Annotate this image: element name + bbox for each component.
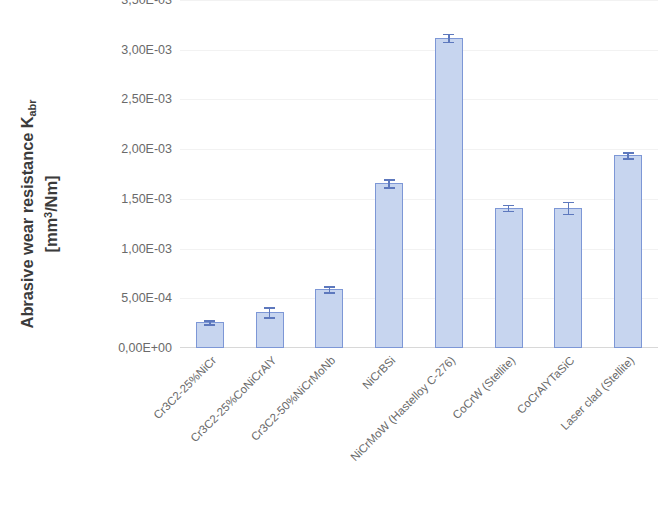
y-axis-tick-label: 1,50E-03 — [96, 192, 172, 206]
error-bar-cap-lower — [503, 211, 514, 213]
error-bar-cap-lower — [264, 317, 275, 319]
y-axis-title-subscript: abr — [26, 100, 38, 117]
error-bar-cap-lower — [563, 214, 574, 216]
bar — [554, 208, 582, 348]
error-bar-cap-lower — [204, 324, 215, 326]
error-bar — [568, 202, 570, 214]
y-axis-title-line2: [mm3/Nm] — [41, 176, 61, 253]
bar-group — [614, 0, 642, 348]
y-axis-title-main: Abrasive wear resistance K — [18, 116, 36, 328]
x-axis-tick-labels: Cr3C2-25%NiCrCr3C2-25%CoNiCrAlYCr3C2-50%… — [180, 348, 658, 523]
error-bar-cap-upper — [324, 286, 335, 288]
y-axis-unit-superscript: 3 — [42, 212, 54, 218]
bar-group — [315, 0, 343, 348]
bar-group — [256, 0, 284, 348]
gridline — [180, 50, 658, 51]
gridline — [180, 298, 658, 299]
bar-group — [196, 0, 224, 348]
gridline — [180, 199, 658, 200]
y-axis-tick-label: 3,50E-03 — [96, 0, 172, 7]
y-axis-tick-label: 2,00E-03 — [96, 142, 172, 156]
bar — [435, 38, 463, 348]
bar-group — [495, 0, 523, 348]
error-bar-cap-upper — [384, 179, 395, 181]
gridline — [180, 249, 658, 250]
y-axis-unit-close: /Nm] — [42, 176, 60, 212]
bar — [614, 155, 642, 348]
y-axis-unit-open: [mm — [42, 218, 60, 253]
error-bar-cap-upper — [204, 320, 215, 322]
bar — [315, 289, 343, 348]
bar — [495, 208, 523, 348]
error-bar-cap-upper — [443, 34, 454, 36]
gridline — [180, 149, 658, 150]
error-bar-cap-upper — [503, 205, 514, 207]
error-bar-cap-upper — [264, 307, 275, 309]
y-axis-tick-label: 5,00E-04 — [96, 291, 172, 305]
bar — [196, 322, 224, 348]
gridline — [180, 99, 658, 100]
bar-group — [375, 0, 403, 348]
y-axis-tick-label: 0,00E+00 — [96, 341, 172, 355]
y-axis-title-line1: Abrasive wear resistance Kabr — [17, 100, 39, 329]
y-axis-tick-label: 1,00E-03 — [96, 242, 172, 256]
y-axis-tick-label: 2,50E-03 — [96, 92, 172, 106]
bar-group — [554, 0, 582, 348]
plot-area — [180, 0, 658, 348]
gridline — [180, 0, 658, 1]
y-axis-title: Abrasive wear resistance Kabr [mm3/Nm] — [0, 49, 87, 379]
error-bar-cap-upper — [623, 152, 634, 154]
bar-chart: Abrasive wear resistance Kabr [mm3/Nm] 0… — [0, 0, 658, 523]
y-axis-tick-label: 3,00E-03 — [96, 43, 172, 57]
bar — [375, 183, 403, 348]
error-bar-cap-lower — [443, 42, 454, 44]
error-bar-cap-lower — [384, 187, 395, 189]
error-bar-cap-lower — [324, 292, 335, 294]
bar-group — [435, 0, 463, 348]
error-bar-cap-lower — [623, 158, 634, 160]
error-bar-cap-upper — [563, 202, 574, 204]
